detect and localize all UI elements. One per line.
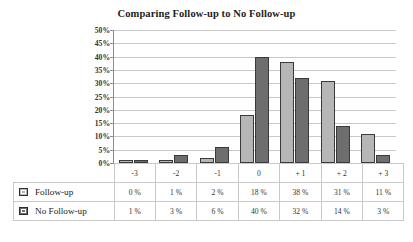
data-value-cell: 3 %: [155, 202, 196, 221]
y-axis-tick-label: 5%: [78, 145, 110, 154]
bar: [255, 57, 269, 163]
bar: [295, 78, 309, 163]
bar-group: [275, 30, 315, 163]
data-value-cell: 32 %: [280, 202, 321, 221]
data-value-cell: 31 %: [321, 183, 362, 202]
y-axis-tick-label: 20%: [78, 105, 110, 114]
data-value-cell: 38 %: [280, 183, 321, 202]
table-header-row: -3-2-10+ 1+ 2+ 3: [14, 164, 404, 183]
chart-title: Comparing Follow-up to No Follow-up: [0, 8, 413, 19]
chart-container: Comparing Follow-up to No Follow-up 50%4…: [0, 0, 413, 242]
y-axis-tick-label: 35%: [78, 65, 110, 74]
category-header-cell: -1: [197, 164, 238, 183]
y-axis-tick-label: 45%: [78, 39, 110, 48]
legend-swatch-icon: [19, 188, 28, 196]
bar: [336, 126, 350, 163]
category-header-cell: + 1: [280, 164, 321, 183]
bar: [240, 115, 254, 163]
category-header-cell: 0: [238, 164, 279, 183]
bar: [280, 62, 294, 163]
data-value-cell: 11 %: [363, 183, 404, 202]
bar-group: [315, 30, 355, 163]
table-row: Follow-up0 %1 %2 %18 %38 %31 %11 %: [14, 183, 404, 202]
category-header-cell: + 3: [363, 164, 404, 183]
y-axis-tick-label: 30%: [78, 79, 110, 88]
table-row: No Follow-up1 %3 %6 %40 %32 %14 %3 %: [14, 202, 404, 221]
data-value-cell: 6 %: [197, 202, 238, 221]
bar: [215, 147, 229, 163]
category-header-cell: -3: [114, 164, 155, 183]
bar: [361, 134, 375, 163]
legend-series-label: No Follow-up: [35, 206, 87, 216]
y-axis-tick-label: 15%: [78, 119, 110, 128]
y-axis-tick-label: 40%: [78, 52, 110, 61]
legend-entry: Follow-up: [16, 187, 114, 197]
legend-series-label: Follow-up: [35, 187, 73, 197]
category-header-cell: + 2: [321, 164, 362, 183]
table-corner-cell: [14, 164, 115, 183]
bar-group: [153, 30, 193, 163]
data-value-cell: 14 %: [321, 202, 362, 221]
data-table: -3-2-10+ 1+ 2+ 3Follow-up0 %1 %2 %18 %38…: [13, 163, 404, 221]
legend-cell: No Follow-up: [14, 202, 115, 221]
y-axis-tick-label: 25%: [78, 92, 110, 101]
bar: [376, 155, 390, 163]
data-value-cell: 18 %: [238, 183, 279, 202]
y-axis-tick-label: 10%: [78, 132, 110, 141]
bar-group: [356, 30, 396, 163]
legend-swatch-icon: [19, 207, 28, 215]
category-header-cell: -2: [155, 164, 196, 183]
bar-group: [194, 30, 234, 163]
bar-group: [113, 30, 153, 163]
bar-group: [234, 30, 274, 163]
data-value-cell: 1 %: [114, 202, 155, 221]
bar: [174, 155, 188, 163]
plot-area: [113, 30, 396, 163]
bars-layer: [113, 30, 396, 163]
data-value-cell: 3 %: [363, 202, 404, 221]
data-value-cell: 1 %: [155, 183, 196, 202]
bar: [321, 81, 335, 163]
legend-entry: No Follow-up: [16, 206, 114, 216]
data-value-cell: 40 %: [238, 202, 279, 221]
y-axis-labels: 50%45%40%35%30%25%20%15%10%5%0%: [78, 30, 110, 163]
legend-cell: Follow-up: [14, 183, 115, 202]
data-value-cell: 2 %: [197, 183, 238, 202]
data-value-cell: 0 %: [114, 183, 155, 202]
y-axis-tick-label: 50%: [78, 26, 110, 35]
